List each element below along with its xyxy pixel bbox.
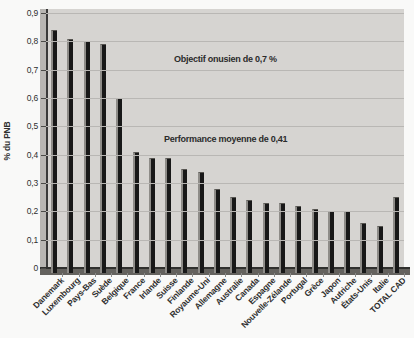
bar: [67, 39, 73, 273]
gridline: [46, 98, 404, 99]
bar: [100, 44, 106, 273]
x-tick: [160, 273, 161, 277]
x-tick: [209, 273, 210, 277]
gridline: [46, 240, 404, 241]
bar: [116, 98, 122, 273]
x-tick: [306, 273, 307, 277]
x-tick: [127, 273, 128, 277]
x-tick: [323, 273, 324, 277]
bar: [263, 203, 269, 273]
x-tick: [241, 273, 242, 277]
x-tick: [339, 273, 340, 277]
y-tick-label: 0,9: [0, 8, 38, 18]
x-tick: [355, 273, 356, 277]
bar: [51, 30, 57, 273]
bar: [344, 211, 350, 273]
y-tick-label: 0,8: [0, 36, 38, 46]
y-tick-label: 0,3: [0, 178, 38, 188]
bar: [328, 211, 334, 273]
bar: [133, 152, 139, 273]
bar: [181, 169, 187, 273]
x-tick: [225, 273, 226, 277]
bar: [84, 41, 90, 273]
bar: [198, 172, 204, 273]
x-tick: [111, 273, 112, 277]
oda-gnp-bar-chart: % du PNB 00,10,20,30,40,50,60,70,80,9 Da…: [0, 0, 414, 338]
bar: [214, 189, 220, 273]
bar: [377, 226, 383, 273]
gridline: [46, 183, 404, 184]
gridline: [46, 126, 404, 127]
y-tick-label: 0,1: [0, 235, 38, 245]
bar: [312, 209, 318, 273]
x-tick: [371, 273, 372, 277]
x-tick: [192, 273, 193, 277]
bar: [279, 203, 285, 273]
y-tick-label: 0: [0, 263, 38, 273]
x-tick: [62, 273, 63, 277]
gridline: [46, 70, 404, 71]
gridline: [46, 155, 404, 156]
gridline: [46, 41, 404, 42]
x-tick: [404, 273, 405, 277]
x-tick: [274, 273, 275, 277]
bar: [165, 158, 171, 273]
x-tick: [290, 273, 291, 277]
x-tick: [258, 273, 259, 277]
x-tick: [388, 273, 389, 277]
y-tick: [41, 268, 46, 269]
bar: [230, 197, 236, 273]
y-tick-label: 0,4: [0, 150, 38, 160]
annotation-un-objective: Objectif onusien de 0,7 %: [174, 54, 277, 65]
x-tick: [95, 273, 96, 277]
x-tick: [176, 273, 177, 277]
gridline: [46, 13, 404, 14]
x-tick: [144, 273, 145, 277]
bar: [360, 223, 366, 273]
y-axis-title: % du PNB: [2, 106, 12, 176]
annotation-average-performance: Performance moyenne de 0,41: [164, 134, 287, 145]
scanned-chart-page: % du PNB 00,10,20,30,40,50,60,70,80,9 Da…: [0, 0, 414, 338]
bar: [393, 197, 399, 273]
y-tick-label: 0,7: [0, 65, 38, 75]
y-tick-label: 0,2: [0, 206, 38, 216]
y-tick-label: 0,5: [0, 121, 38, 131]
x-tick: [79, 273, 80, 277]
y-tick-label: 0,6: [0, 93, 38, 103]
bar: [149, 158, 155, 273]
gridline: [46, 211, 404, 212]
